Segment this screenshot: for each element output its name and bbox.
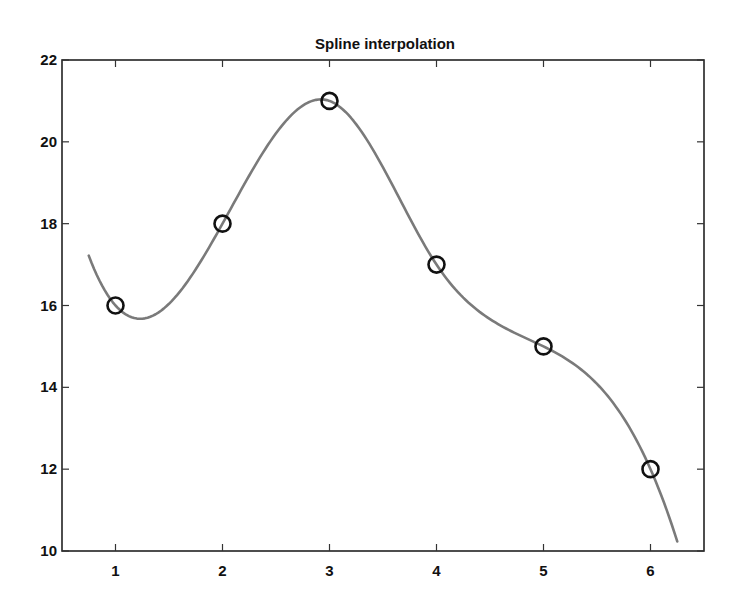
x-tick-label: 6	[646, 562, 654, 579]
y-tick-label: 10	[40, 542, 57, 559]
y-tick-label: 12	[40, 460, 57, 477]
y-tick-label: 22	[40, 51, 57, 68]
spline-curve	[89, 99, 678, 541]
x-tick-label: 4	[432, 562, 441, 579]
y-tick-label: 16	[40, 297, 57, 314]
x-tick-label: 5	[539, 562, 547, 579]
y-tick-label: 18	[40, 215, 57, 232]
axes-frame	[62, 60, 704, 551]
data-markers	[108, 93, 659, 477]
x-axis: 123456	[111, 60, 654, 579]
chart-title: Spline interpolation	[315, 35, 455, 52]
y-tick-label: 14	[40, 378, 57, 395]
x-tick-label: 1	[111, 562, 119, 579]
y-axis: 10121416182022	[40, 51, 704, 559]
x-tick-label: 2	[218, 562, 226, 579]
spline-chart: Spline interpolation 123456 101214161820…	[0, 0, 741, 602]
x-tick-label: 3	[325, 562, 333, 579]
y-tick-label: 20	[40, 133, 57, 150]
